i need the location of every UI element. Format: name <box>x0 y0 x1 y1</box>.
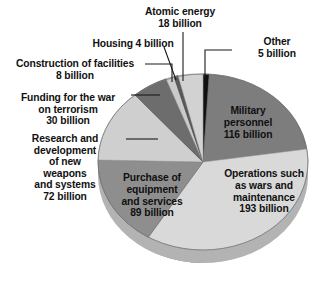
label-research-and-development: Research and development of new weapons … <box>6 133 124 203</box>
label-housing: Housing 4 billion <box>74 38 192 50</box>
label-operations: Operations such as wars and maintenance … <box>212 168 316 215</box>
label-purchase-of-equipment: Purchase of equipment and services 89 bi… <box>108 172 196 219</box>
label-military-personnel: Military personnel 116 billion <box>210 105 286 140</box>
label-atomic-energy: Atomic energy 18 billion <box>128 6 232 29</box>
pie-chart-figure: Atomic energy 18 billion Housing 4 billi… <box>0 0 333 283</box>
label-funding-war-on-terrorism: Funding for the war on terrorism 30 bill… <box>6 92 130 127</box>
label-other: Other 5 billion <box>236 36 318 59</box>
label-construction-of-facilities: Construction of facilities 8 billion <box>6 58 144 81</box>
